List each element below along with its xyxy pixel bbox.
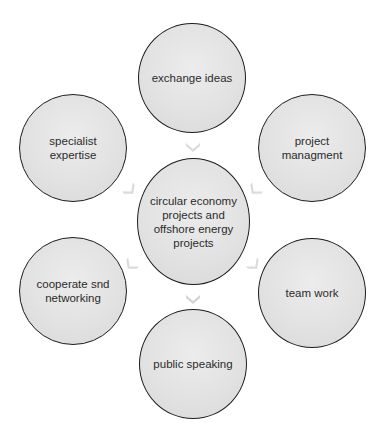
node-project-managment: project managment [258, 94, 366, 202]
chevron-arrow-icon [120, 180, 140, 199]
radial-diagram: exchange ideas specialist expertise proj… [0, 0, 385, 438]
node-public-speaking: public speaking [139, 309, 247, 419]
node-label: exchange ideas [144, 71, 241, 85]
chevron-arrow-icon [185, 293, 201, 305]
node-label: specialist expertise [41, 134, 104, 162]
node-label: team work [277, 286, 346, 300]
chevron-arrow-icon [185, 141, 201, 153]
node-team-work: team work [258, 238, 366, 348]
center-label: circular economy projects and offshore e… [142, 194, 245, 250]
node-cooperate-networking: cooperate snd networking [19, 237, 127, 345]
node-label: public speaking [145, 357, 240, 371]
node-specialist-expertise: specialist expertise [19, 94, 127, 202]
node-label: project managment [274, 134, 351, 162]
chevron-arrow-icon [121, 255, 141, 274]
node-exchange-ideas: exchange ideas [138, 23, 246, 133]
chevron-arrow-icon [245, 180, 265, 199]
node-label: cooperate snd networking [29, 277, 118, 305]
node-center-circular-economy: circular economy projects and offshore e… [137, 158, 250, 285]
